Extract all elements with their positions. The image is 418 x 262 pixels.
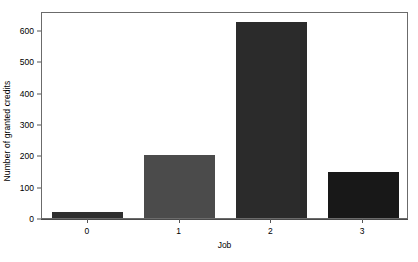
x-tick-mark <box>87 219 88 223</box>
x-tick-mark <box>270 219 271 223</box>
bar-chart: Number of granted credits 01002003004005… <box>0 0 418 262</box>
x-tick-label: 1 <box>164 226 194 236</box>
x-axis-title: Job <box>41 240 408 250</box>
x-tick-mark <box>179 219 180 223</box>
x-tick-mark <box>362 219 363 223</box>
x-tick-label: 0 <box>72 226 102 236</box>
x-tick-label: 3 <box>347 226 377 236</box>
x-tick-label: 2 <box>255 226 285 236</box>
x-axis-ticks: 0123 <box>0 0 418 262</box>
